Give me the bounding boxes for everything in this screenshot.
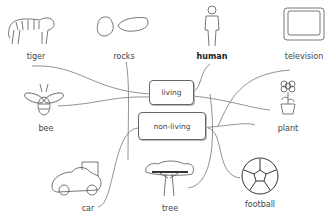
car-icon xyxy=(48,158,106,200)
human-label: human xyxy=(197,52,228,61)
tree-icon xyxy=(142,158,198,198)
living-label: living xyxy=(161,88,181,97)
rocks-icon xyxy=(94,14,154,38)
tree-label: tree xyxy=(162,204,178,213)
car-label: car xyxy=(82,204,95,213)
plant-icon xyxy=(276,78,300,116)
television-icon xyxy=(282,6,326,46)
rocks-label: rocks xyxy=(113,52,134,61)
plant-label: plant xyxy=(278,124,298,133)
television-label: television xyxy=(285,52,324,61)
bee-label: bee xyxy=(39,124,54,133)
football-label: football xyxy=(245,200,275,209)
living-node: living xyxy=(149,80,194,105)
non-living-node: non-living xyxy=(138,112,206,140)
tiger-label: tiger xyxy=(27,52,46,61)
tiger-icon xyxy=(6,10,58,46)
non-living-label: non-living xyxy=(153,122,190,131)
mind-map-diagram: living non-living tiger rocks human tele… xyxy=(0,0,336,222)
football-icon xyxy=(240,156,280,196)
bee-icon xyxy=(22,82,66,120)
human-icon xyxy=(202,4,222,48)
